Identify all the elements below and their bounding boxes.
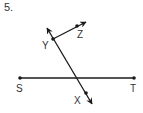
- point-z: [75, 24, 79, 28]
- label-x: X: [74, 95, 81, 106]
- geometry-diagram: S T Y Z X: [0, 0, 143, 113]
- label-s: S: [16, 83, 23, 94]
- point-x: [84, 91, 88, 95]
- label-y: Y: [42, 40, 49, 51]
- point-s: [18, 76, 22, 80]
- label-z: Z: [77, 29, 83, 40]
- point-y: [51, 37, 55, 41]
- point-t: [132, 76, 136, 80]
- label-t: T: [130, 83, 136, 94]
